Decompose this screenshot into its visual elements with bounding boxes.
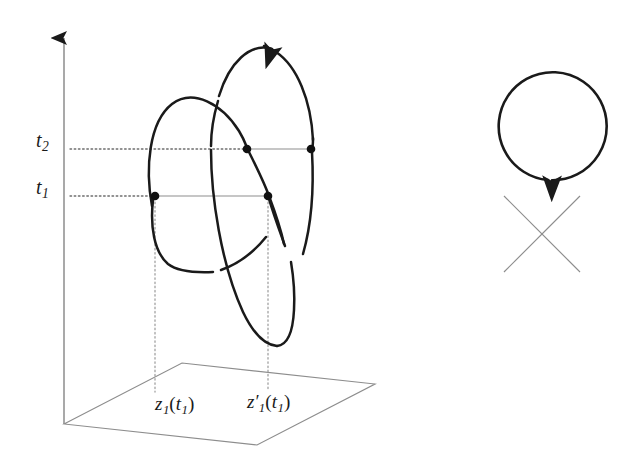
marked-points xyxy=(151,145,316,201)
point-left-loop-t1 xyxy=(151,192,160,201)
point-left-loop-t2 xyxy=(243,145,252,154)
crossing-strands xyxy=(221,199,285,270)
circle-outline xyxy=(499,72,607,180)
ground-plane-parallelogram xyxy=(64,363,375,445)
figure-canvas: t2 t1 z1(t1) z′1(t1) xyxy=(0,0,640,474)
left-closed-curve xyxy=(149,98,284,273)
ground-label-z1: z1(t1) xyxy=(155,393,194,418)
axis-tick-label-t2: t2 xyxy=(36,129,49,155)
side-circle-with-chords xyxy=(499,72,607,272)
axis-tick-label-t1: t1 xyxy=(36,176,49,202)
diagram-svg xyxy=(0,0,640,474)
point-right-loop-t1 xyxy=(264,192,273,201)
ground-label-z1-prime: z′1(t1) xyxy=(247,391,290,416)
point-right-loop-t2 xyxy=(307,145,316,154)
